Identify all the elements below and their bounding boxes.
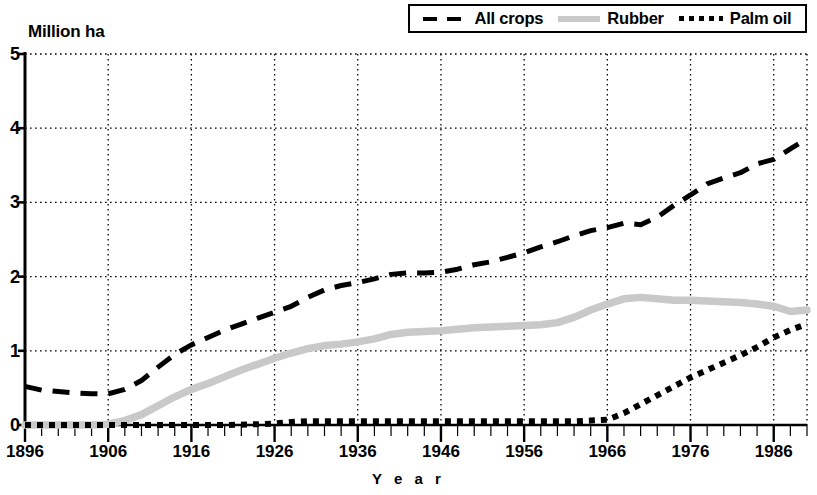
- y-tick-label: 1: [0, 342, 20, 360]
- series-line-all-crops: [25, 139, 807, 394]
- chart-container: Million ha All crops Rubber Palm oil 012…: [0, 0, 817, 495]
- series-line-palm-oil: [25, 324, 807, 425]
- legend-item-all-crops: All crops: [423, 10, 543, 27]
- y-tick-label: 5: [0, 45, 20, 63]
- dotted-line-swatch: [679, 16, 723, 21]
- series-line-rubber: [25, 297, 807, 425]
- x-tick-label: 1966: [577, 443, 637, 460]
- legend-item-rubber: Rubber: [558, 10, 664, 27]
- y-tick-label: 2: [0, 268, 20, 286]
- x-tick-label: 1956: [494, 443, 554, 460]
- x-tick-label: 1906: [78, 443, 138, 460]
- x-tick-label: 1976: [661, 443, 721, 460]
- x-tick-label: 1916: [161, 443, 221, 460]
- legend-item-palm-oil: Palm oil: [679, 10, 792, 27]
- x-tick-label: 1946: [411, 443, 471, 460]
- y-tick-label: 0: [0, 416, 20, 434]
- y-tick-label: 4: [0, 119, 20, 137]
- x-tick-label: 1926: [245, 443, 305, 460]
- dashed-line-swatch: [423, 17, 467, 21]
- y-axis-unit-label: Million ha: [28, 22, 104, 42]
- legend-label-rubber: Rubber: [607, 10, 664, 27]
- x-tick-label: 1936: [328, 443, 388, 460]
- legend-label-all-crops: All crops: [474, 10, 543, 27]
- x-axis-title: Y e a r: [0, 470, 817, 487]
- plot-area: [0, 0, 817, 495]
- solid-line-swatch: [558, 16, 600, 22]
- chart-legend: All crops Rubber Palm oil: [408, 4, 807, 33]
- x-tick-label: 1986: [744, 443, 804, 460]
- legend-label-palm-oil: Palm oil: [730, 10, 792, 27]
- y-tick-label: 3: [0, 193, 20, 211]
- x-tick-label: 1896: [0, 443, 55, 460]
